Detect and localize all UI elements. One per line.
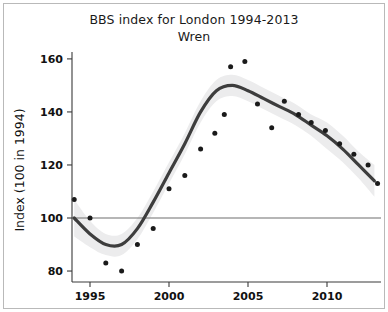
x-tick-labels: 1995200020052010 [75, 290, 343, 303]
data-point [351, 152, 356, 157]
chart-plot-area: 80100120140160 1995200020052010 Index (1… [0, 0, 388, 312]
data-point [255, 101, 260, 106]
data-point [242, 59, 247, 64]
confidence-band [74, 75, 374, 257]
y-tick-labels: 80100120140160 [40, 53, 63, 278]
y-tick-label: 160 [40, 53, 63, 66]
data-point [296, 112, 301, 117]
data-point [182, 173, 187, 178]
y-axis-title: Index (100 in 1994) [12, 108, 27, 231]
data-point [228, 64, 233, 69]
data-point [119, 269, 124, 274]
y-tick-label: 80 [48, 265, 64, 278]
x-tick-label: 2000 [154, 290, 185, 303]
confidence-band-shape [74, 75, 374, 257]
data-point [375, 181, 380, 186]
data-point [88, 216, 93, 221]
data-point [282, 99, 287, 104]
y-tick-label: 120 [40, 159, 63, 172]
y-tick-label: 140 [40, 106, 63, 119]
data-point [309, 120, 314, 125]
chart-screenshot: BBS index for London 1994-2013 Wren 8010… [0, 0, 388, 312]
trend-line-shape [74, 85, 374, 246]
smoothed-trend-line [74, 85, 374, 246]
data-point [135, 242, 140, 247]
data-point [366, 162, 371, 167]
y-axis-title-text: Index (100 in 1994) [12, 108, 27, 231]
data-point [167, 186, 172, 191]
data-point [198, 147, 203, 152]
x-tick-label: 1995 [75, 290, 106, 303]
x-tick-label: 2005 [233, 290, 264, 303]
data-point [212, 131, 217, 136]
data-point [323, 128, 328, 133]
y-tick-label: 100 [40, 212, 63, 225]
x-tick-label: 2010 [312, 290, 343, 303]
data-point [222, 112, 227, 117]
data-point [269, 125, 274, 130]
data-point [151, 226, 156, 231]
data-point [337, 141, 342, 146]
data-point [103, 261, 108, 266]
